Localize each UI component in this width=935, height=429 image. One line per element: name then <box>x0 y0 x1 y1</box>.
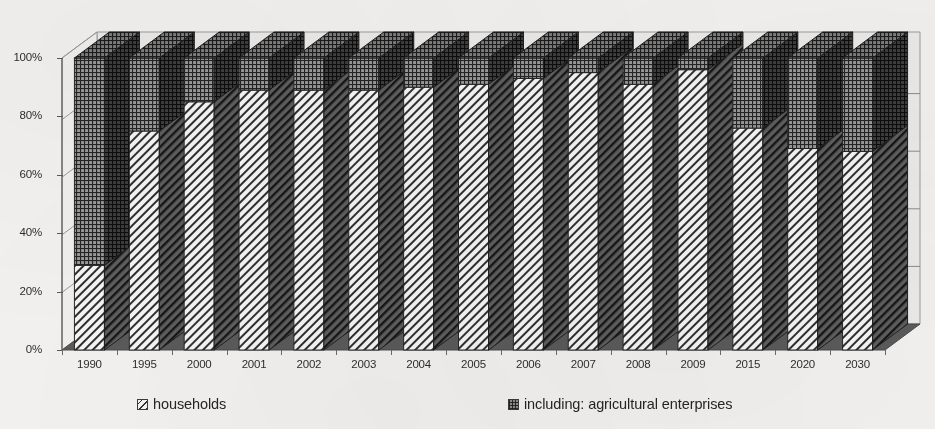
x-axis-tick-mark <box>556 350 557 355</box>
x-axis-tick-label: 2005 <box>451 358 497 370</box>
x-axis-tick-mark <box>611 350 612 355</box>
x-axis-tick-label: 2015 <box>725 358 771 370</box>
cross-hatch-swatch <box>508 399 519 410</box>
x-axis-tick-label: 1990 <box>66 358 112 370</box>
legend-label: including: agricultural enterprises <box>524 396 732 412</box>
x-axis-tick-mark <box>172 350 173 355</box>
x-axis-tick-mark <box>830 350 831 355</box>
x-axis-tick-mark <box>666 350 667 355</box>
x-axis-tick-label: 2008 <box>615 358 661 370</box>
x-axis-tick-label: 2020 <box>780 358 826 370</box>
x-axis-tick-mark <box>501 350 502 355</box>
x-axis-tick-label: 2030 <box>835 358 881 370</box>
x-axis-tick-label: 2003 <box>341 358 387 370</box>
x-axis-tick-mark <box>62 350 63 355</box>
x-axis: 1990199520002001200220032004200520062007… <box>0 0 935 429</box>
x-axis-tick-label: 2002 <box>286 358 332 370</box>
x-axis-tick-label: 2000 <box>176 358 222 370</box>
x-axis-tick-mark <box>336 350 337 355</box>
legend-label: households <box>153 396 226 412</box>
x-axis-tick-label: 1995 <box>121 358 167 370</box>
legend-item-agricultural-enterprises[interactable]: including: agricultural enterprises <box>508 396 732 412</box>
x-axis-tick-mark <box>885 350 886 355</box>
chart-legend: householdsincluding: agricultural enterp… <box>0 396 935 418</box>
diagonal-hatch-swatch <box>137 399 148 410</box>
x-axis-tick-label: 2007 <box>560 358 606 370</box>
x-axis-tick-mark <box>391 350 392 355</box>
x-axis-tick-label: 2006 <box>505 358 551 370</box>
x-axis-tick-mark <box>281 350 282 355</box>
x-axis-tick-mark <box>227 350 228 355</box>
x-axis-tick-mark <box>720 350 721 355</box>
chart-area: 0%20%40%60%80%100% 199019952000200120022… <box>0 0 935 429</box>
x-axis-tick-label: 2009 <box>670 358 716 370</box>
x-axis-tick-label: 2004 <box>396 358 442 370</box>
x-axis-tick-mark <box>775 350 776 355</box>
x-axis-tick-mark <box>117 350 118 355</box>
x-axis-tick-mark <box>446 350 447 355</box>
legend-item-households[interactable]: households <box>137 396 226 412</box>
x-axis-tick-label: 2001 <box>231 358 277 370</box>
